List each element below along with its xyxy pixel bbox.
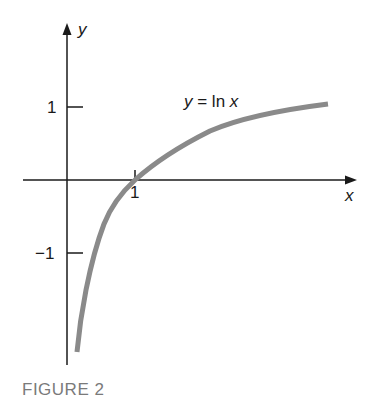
figure-caption: FIGURE 2 xyxy=(22,380,104,400)
x-axis-label: x xyxy=(344,186,354,205)
y-axis-arrow-icon xyxy=(63,23,72,35)
curve-label: y = ln x xyxy=(183,92,239,111)
x-tick-label-1: 1 xyxy=(130,183,139,202)
y-axis-label: y xyxy=(77,20,88,39)
ln-curve xyxy=(77,104,328,352)
y-tick-label-1: 1 xyxy=(47,98,56,117)
x-axis-arrow-icon xyxy=(345,176,357,185)
ln-graph: y x 1 −1 1 y = ln x xyxy=(0,0,372,408)
y-tick-label-neg1: −1 xyxy=(35,244,54,263)
